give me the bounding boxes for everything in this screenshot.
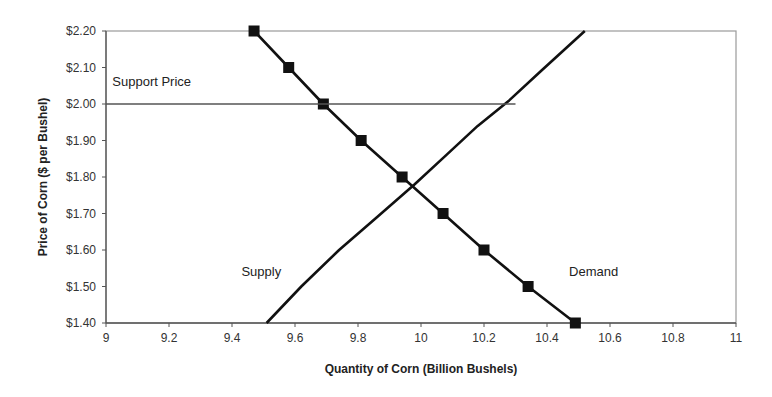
supply-line xyxy=(267,31,585,323)
x-tick-label: 11 xyxy=(730,331,743,345)
y-axis: $1.40$1.50$1.60$1.70$1.80$1.90$2.00$2.10… xyxy=(66,24,106,330)
demand-line xyxy=(254,31,575,323)
x-tick-label: 9 xyxy=(103,331,110,345)
demand-marker xyxy=(356,135,367,146)
x-tick-label: 9.4 xyxy=(224,331,241,345)
x-tick-label: 9.6 xyxy=(287,331,304,345)
demand-marker xyxy=(523,281,534,292)
y-tick-label: $1.50 xyxy=(66,280,96,294)
demand-marker xyxy=(397,172,408,183)
y-tick-label: $1.70 xyxy=(66,207,96,221)
x-axis-title: Quantity of Corn (Billion Bushels) xyxy=(325,362,518,376)
x-tick-label: 10.6 xyxy=(598,331,622,345)
supply-demand-chart: $1.40$1.50$1.60$1.70$1.80$1.90$2.00$2.10… xyxy=(0,0,772,397)
x-tick-label: 9.8 xyxy=(350,331,367,345)
y-tick-label: $2.10 xyxy=(66,61,96,75)
y-tick-label: $2.20 xyxy=(66,24,96,38)
y-tick-label: $1.40 xyxy=(66,316,96,330)
x-tick-label: 10 xyxy=(414,331,428,345)
demand-marker xyxy=(570,318,581,329)
x-tick-label: 10.8 xyxy=(661,331,685,345)
demand-marker xyxy=(249,26,260,37)
x-tick-label: 9.2 xyxy=(161,331,178,345)
x-tick-label: 10.4 xyxy=(535,331,559,345)
x-tick-label: 10.2 xyxy=(472,331,496,345)
y-tick-label: $2.00 xyxy=(66,97,96,111)
y-axis-title: Price of Corn ($ per Bushel) xyxy=(36,98,50,257)
demand-marker xyxy=(283,62,294,73)
x-axis: 99.29.49.69.81010.210.410.610.811 xyxy=(103,323,743,345)
supply-label: Supply xyxy=(241,264,281,279)
support-price-label: Support Price xyxy=(112,74,191,89)
y-tick-label: $1.90 xyxy=(66,134,96,148)
series-layer xyxy=(106,26,585,329)
demand-marker xyxy=(479,245,490,256)
demand-label: Demand xyxy=(569,264,618,279)
y-tick-label: $1.80 xyxy=(66,170,96,184)
y-tick-label: $1.60 xyxy=(66,243,96,257)
demand-marker xyxy=(438,208,449,219)
